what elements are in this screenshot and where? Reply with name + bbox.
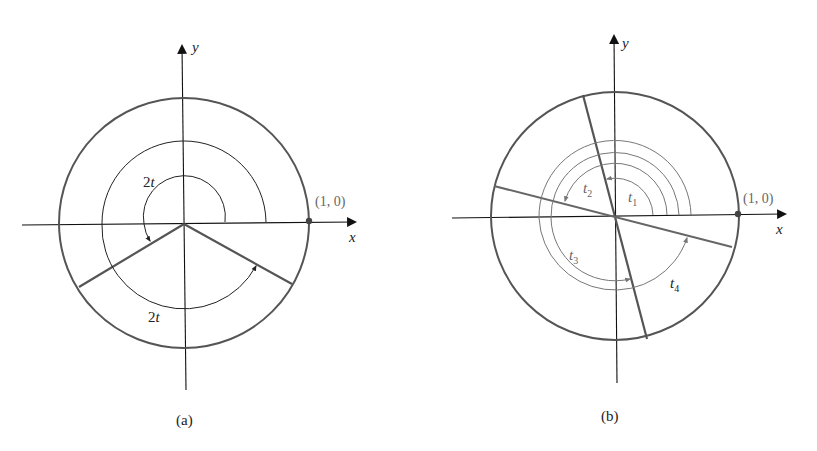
x-axis-label: x <box>348 229 356 245</box>
x-axis <box>22 222 355 225</box>
y-axis-label: y <box>620 35 629 51</box>
arc-label-lower: 2t <box>148 309 161 325</box>
spoke-left <box>79 224 184 287</box>
caption-b: (b) <box>601 408 619 425</box>
caption-a: (a) <box>176 412 193 429</box>
unit-circle-figures: y x (1, 0) 2t 2t (a) y x (1, 0) t1 t2 t3… <box>0 0 817 451</box>
arc-label-t1: t1 <box>628 189 637 208</box>
arc-label-t4: t4 <box>670 275 679 294</box>
spoke-t2-t4 <box>494 186 732 247</box>
figure-a: y x (1, 0) 2t 2t (a) <box>22 39 356 429</box>
arc-label-upper: 2t <box>143 174 156 190</box>
point-label: (1, 0) <box>743 191 774 207</box>
spoke-right <box>184 224 292 284</box>
point-1-0 <box>306 218 312 224</box>
x-axis-label: x <box>775 221 783 237</box>
y-axis <box>614 36 617 383</box>
y-axis-label: y <box>190 39 199 55</box>
point-label: (1, 0) <box>315 194 346 210</box>
figure-b: y x (1, 0) t1 t2 t3 t4 (b) <box>452 35 785 425</box>
point-1-0 <box>735 211 741 217</box>
arc-label-t2: t2 <box>583 180 592 199</box>
